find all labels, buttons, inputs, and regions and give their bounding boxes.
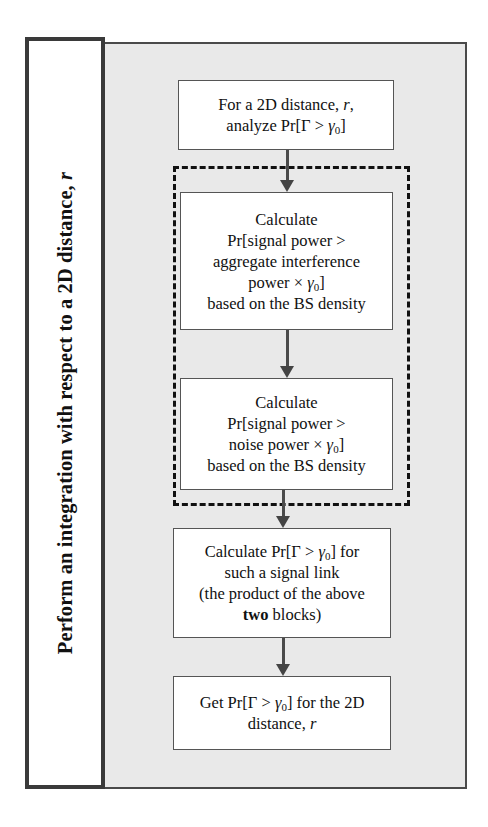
label-text: ] xyxy=(340,116,346,135)
arrow-down-icon xyxy=(276,638,290,676)
label-text: blocks) xyxy=(268,605,321,624)
label-text: Get Pr[Γ > xyxy=(200,693,275,712)
label-text: Pr[signal power > xyxy=(207,230,366,251)
label-text: power × xyxy=(248,273,307,292)
label-text: Calculate Pr[Γ > xyxy=(205,542,319,561)
label-text: ] for xyxy=(330,542,359,561)
box-product: Calculate Pr[Γ > γ0] for such a signal l… xyxy=(173,528,391,638)
box-analyze: For a 2D distance, r, analyze Pr[Γ > γ0] xyxy=(178,80,394,150)
label-text: (the product of the above xyxy=(199,583,365,604)
label-text: Calculate xyxy=(207,209,366,230)
label-text: analyze Pr[Γ > xyxy=(226,116,328,135)
arrow-down-icon xyxy=(280,330,294,378)
label-text: , xyxy=(350,95,354,114)
label-text: such a signal link xyxy=(199,562,365,583)
arrow-down-icon xyxy=(280,150,294,192)
label-text: based on the BS density xyxy=(207,293,366,314)
label-text: ] xyxy=(319,273,325,292)
label-text: ] xyxy=(339,435,345,454)
label-text: based on the BS density xyxy=(207,455,366,476)
integration-label-box: Perform an integration with respect to a… xyxy=(25,37,105,789)
integration-label-text: Perform an integration with respect to a… xyxy=(54,180,76,654)
label-text: r xyxy=(310,714,316,733)
label-text: aggregate interference xyxy=(207,251,366,272)
box-result: Get Pr[Γ > γ0] for the 2D distance, r xyxy=(173,676,391,750)
label-text: distance, xyxy=(248,714,310,733)
integration-label: Perform an integration with respect to a… xyxy=(54,172,77,654)
label-text: two xyxy=(243,605,269,624)
label-text: ] for the 2D xyxy=(287,693,364,712)
label-text: noise power × xyxy=(229,435,327,454)
label-text: Calculate xyxy=(207,392,366,413)
box-noise: Calculate Pr[signal power > noise power … xyxy=(180,378,393,490)
label-text: For a 2D distance, xyxy=(218,95,343,114)
variable-r: r xyxy=(54,172,76,180)
arrow-down-icon xyxy=(276,490,290,528)
label-text: Pr[signal power > xyxy=(207,413,366,434)
box-interference: Calculate Pr[signal power > aggregate in… xyxy=(180,192,393,330)
